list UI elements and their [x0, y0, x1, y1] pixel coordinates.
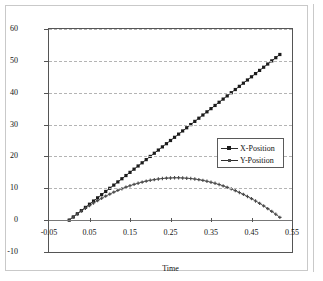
data-point [132, 183, 135, 186]
data-point [221, 184, 224, 187]
data-point [278, 53, 281, 56]
data-point [254, 72, 257, 75]
data-point [209, 107, 212, 110]
gridline [49, 188, 292, 189]
data-point [181, 129, 184, 132]
data-point [149, 179, 152, 182]
data-point [120, 177, 123, 180]
data-point [201, 113, 204, 116]
data-point [112, 184, 115, 187]
gridline [49, 29, 292, 30]
data-point [173, 136, 176, 139]
data-point [100, 193, 103, 196]
x-tick-mark [90, 218, 91, 222]
legend-marker-y-position [221, 156, 238, 165]
data-point [238, 85, 241, 88]
data-point [128, 184, 131, 187]
chart-legend: X-Position Y-Position [217, 138, 284, 168]
x-tick-mark [252, 218, 253, 222]
data-point [201, 179, 204, 182]
x-axis-title: Time [48, 264, 293, 273]
data-point [181, 176, 184, 179]
data-point [193, 177, 196, 180]
data-point [205, 110, 208, 113]
x-tick-mark [130, 218, 131, 222]
data-point [234, 189, 237, 192]
y-tick-label: 50 [0, 57, 18, 65]
y-tick-label: 40 [0, 89, 18, 97]
chart-frame: 6050403020100-10 -0.050.050.150.250.350.… [5, 5, 308, 271]
data-point [157, 148, 160, 151]
data-point [177, 176, 180, 179]
data-point [189, 177, 192, 180]
data-point [250, 75, 253, 78]
x-tick-label: 0.55 [272, 229, 312, 237]
gridline [49, 93, 292, 94]
gridline [49, 61, 292, 62]
data-point [157, 177, 160, 180]
data-point [132, 168, 135, 171]
data-point [128, 171, 131, 174]
data-point [185, 176, 188, 179]
x-tick-label: 0.45 [232, 229, 272, 237]
data-point [266, 62, 269, 65]
data-point [205, 180, 208, 183]
data-point [197, 117, 200, 120]
data-point [165, 142, 168, 145]
y-tick-label: 20 [0, 152, 18, 160]
data-point [100, 197, 103, 200]
series-y-position [68, 176, 282, 222]
data-point [161, 177, 164, 180]
data-point [104, 194, 107, 197]
data-point [213, 182, 216, 185]
legend-item-x-position: X-Position [221, 142, 280, 154]
x-tick-label: -0.05 [29, 229, 69, 237]
data-point [238, 191, 241, 194]
data-point [153, 152, 156, 155]
data-point [250, 197, 253, 200]
data-point [209, 181, 212, 184]
data-point [116, 180, 119, 183]
data-point [217, 183, 220, 186]
data-point [169, 139, 172, 142]
data-point [177, 133, 180, 136]
data-point [141, 161, 144, 164]
data-point [246, 78, 249, 81]
data-point [137, 164, 140, 167]
data-point [145, 179, 148, 182]
panel-right-edge [313, 4, 322, 272]
legend-label-x-position: X-Position [240, 144, 275, 153]
y-tick-label: 30 [0, 121, 18, 129]
chart-figure: 6050403020100-10 -0.050.050.150.250.350.… [0, 0, 323, 281]
series-line [69, 178, 280, 220]
data-point [112, 190, 115, 193]
x-tick-label: 0.05 [70, 229, 110, 237]
data-point [213, 104, 216, 107]
data-point [242, 82, 245, 85]
data-point [262, 66, 265, 69]
data-point [234, 88, 237, 91]
data-point [242, 193, 245, 196]
y-tick-label: 10 [0, 184, 18, 192]
x-tick-mark [171, 218, 172, 222]
data-point [218, 101, 221, 104]
legend-marker-x-position [221, 144, 238, 153]
x-tick-mark [211, 218, 212, 222]
gridline [49, 252, 292, 253]
data-point [161, 145, 164, 148]
data-point [258, 69, 261, 72]
data-point [185, 126, 188, 129]
y-tick-label: 0 [0, 216, 18, 224]
data-point [173, 176, 176, 179]
data-point [193, 120, 196, 123]
data-point [274, 56, 277, 59]
data-point [226, 94, 229, 97]
data-point [153, 178, 156, 181]
data-point [104, 190, 107, 193]
data-point [246, 195, 249, 198]
y-tick-label: 60 [0, 25, 18, 33]
data-point [136, 181, 139, 184]
data-point [145, 158, 148, 161]
data-point [169, 176, 172, 179]
data-point [165, 176, 168, 179]
